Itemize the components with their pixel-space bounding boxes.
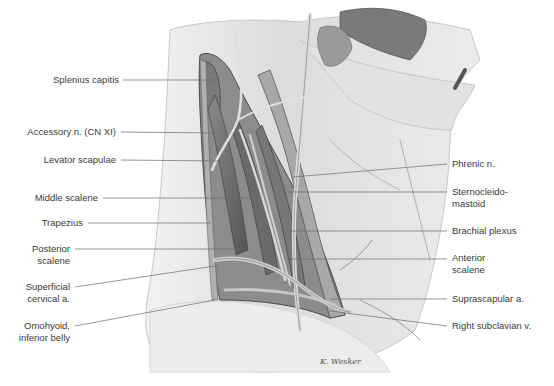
artist-signature: K. Wesker (319, 357, 362, 366)
label-splenius-capitis: Splenius capitis (53, 74, 119, 86)
label-accessory-n: Accessory n. (CN XI) (27, 126, 116, 138)
neck-silhouette (146, 8, 480, 372)
label-text: Right subclavian v. (452, 320, 531, 332)
label-posterior-scalene: Posterior scalene (32, 243, 70, 266)
label-text: Brachial plexus (452, 225, 516, 237)
label-superficial-cervical-a: Superficial cervical a. (26, 281, 70, 304)
label-anterior-scalene: Anterior scalene (452, 252, 485, 275)
label-text: Sternocleido- (452, 186, 508, 198)
label-middle-scalene: Middle scalene (35, 192, 98, 204)
label-text: cervical a. (26, 293, 70, 305)
label-text: mastoid (452, 198, 508, 210)
label-right-subclavian-v: Right subclavian v. (452, 320, 531, 332)
label-text: Posterior (32, 243, 70, 255)
label-text: Levator scapulae (44, 154, 116, 166)
label-text: Omohyoid, (19, 320, 70, 332)
label-text: inferior belly (19, 332, 70, 344)
label-levator-scapulae: Levator scapulae (44, 154, 116, 166)
label-text: Accessory n. (CN XI) (27, 126, 116, 138)
label-suprascapular-a: Suprascapular a. (452, 293, 524, 305)
label-omohyoid-inferior-belly: Omohyoid, inferior belly (19, 320, 70, 343)
label-trapezius: Trapezius (42, 217, 83, 229)
label-text: Splenius capitis (53, 74, 119, 86)
label-text: scalene (32, 255, 70, 267)
label-text: scalene (452, 264, 485, 276)
label-text: Middle scalene (35, 192, 98, 204)
label-phrenic-n: Phrenic n. (452, 158, 495, 170)
label-sternocleidomastoid: Sternocleido- mastoid (452, 186, 508, 209)
label-brachial-plexus: Brachial plexus (452, 225, 516, 237)
label-text: Anterior (452, 252, 485, 264)
label-text: Phrenic n. (452, 158, 495, 170)
label-text: Suprascapular a. (452, 293, 524, 305)
label-text: Trapezius (42, 217, 83, 229)
label-text: Superficial (26, 281, 70, 293)
